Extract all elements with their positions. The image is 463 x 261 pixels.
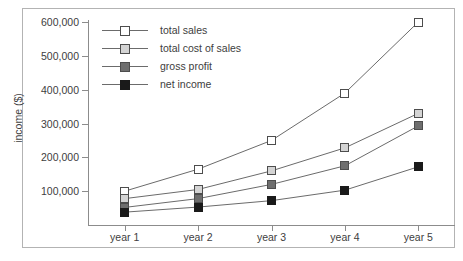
legend-label: total cost of sales	[160, 42, 241, 55]
y-tick	[82, 56, 88, 57]
legend-label: net income	[160, 78, 211, 91]
y-tick-label-wrap: 400,000	[0, 85, 79, 95]
y-tick	[82, 191, 88, 192]
data-point	[194, 185, 203, 194]
y-tick-label-wrap: 500,000	[0, 51, 79, 61]
legend-item: total cost of sales	[102, 42, 252, 56]
data-point	[340, 89, 349, 98]
y-tick	[82, 157, 88, 158]
y-tick-label: 500,000	[0, 51, 79, 61]
x-tick-label: year 4	[305, 231, 385, 243]
legend-item: total sales	[102, 24, 252, 38]
data-point	[267, 166, 276, 175]
legend-item: gross profit	[102, 60, 252, 74]
x-tick-label: year 5	[378, 231, 458, 243]
data-point	[340, 186, 349, 195]
legend-marker-icon	[120, 44, 130, 54]
data-point	[340, 143, 349, 152]
data-point	[267, 136, 276, 145]
chart-figure: income ($) 100,000200,000300,000400,0005…	[0, 0, 463, 261]
y-tick-label-wrap: 200,000	[0, 152, 79, 162]
data-point	[414, 162, 423, 171]
y-tick-label-wrap: 300,000	[0, 119, 79, 129]
data-point	[120, 194, 129, 203]
data-point	[414, 18, 423, 27]
chart-legend: total salestotal cost of salesgross prof…	[102, 24, 252, 96]
plot-area: income ($) 100,000200,000300,000400,0005…	[0, 0, 463, 261]
y-axis-line	[88, 20, 89, 226]
legend-label: total sales	[160, 24, 207, 37]
data-point	[414, 109, 423, 118]
y-tick-label: 600,000	[0, 17, 79, 27]
y-tick-label-wrap: 100,000	[0, 186, 79, 196]
data-point	[414, 121, 423, 130]
y-tick-label: 400,000	[0, 85, 79, 95]
y-tick-label: 300,000	[0, 119, 79, 129]
data-point	[267, 196, 276, 205]
y-tick-label-wrap: 600,000	[0, 17, 79, 27]
data-point	[194, 203, 203, 212]
legend-label: gross profit	[160, 60, 212, 73]
legend-marker-icon	[120, 62, 130, 72]
legend-marker-icon	[120, 26, 130, 36]
y-tick-label: 200,000	[0, 152, 79, 162]
legend-item: net income	[102, 78, 252, 92]
legend-marker-icon	[120, 80, 130, 90]
y-tick	[82, 124, 88, 125]
y-tick	[82, 90, 88, 91]
x-tick-label: year 3	[232, 231, 312, 243]
data-point	[340, 161, 349, 170]
x-tick-label: year 2	[158, 231, 238, 243]
data-point	[120, 208, 129, 217]
y-tick	[82, 22, 88, 23]
x-tick-label: year 1	[85, 231, 165, 243]
data-point	[267, 180, 276, 189]
y-tick-label: 100,000	[0, 186, 79, 196]
data-point	[194, 165, 203, 174]
